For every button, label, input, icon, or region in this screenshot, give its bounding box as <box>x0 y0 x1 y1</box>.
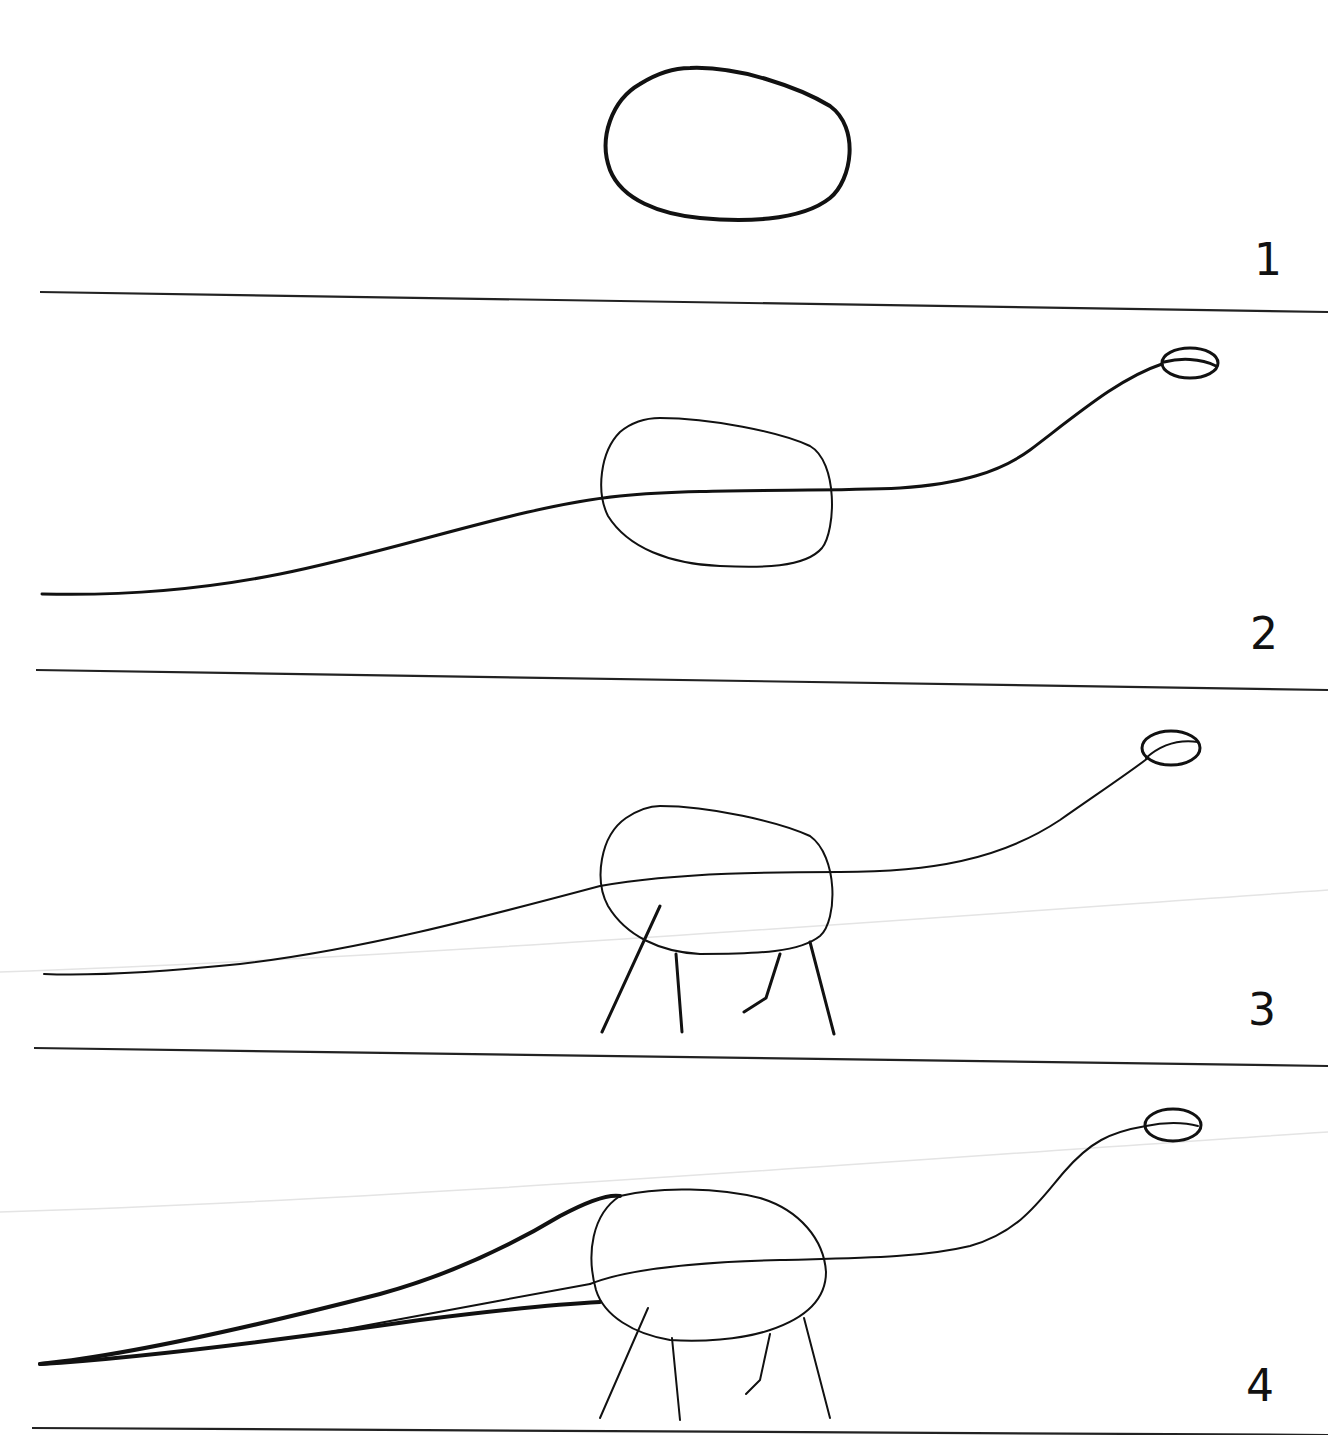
step-1-drawing <box>606 68 850 220</box>
faint-scan-line <box>0 1132 1328 1212</box>
faint-scan-line <box>0 890 1328 972</box>
head-mouth-line <box>1164 359 1216 366</box>
leg-back-left <box>744 954 780 1012</box>
dinosaur-drawing-steps <box>0 0 1328 1435</box>
step-2-drawing <box>42 348 1218 594</box>
body-oval <box>606 68 850 220</box>
tail-lower-outline <box>40 1302 600 1364</box>
body-oval <box>591 1189 826 1340</box>
divider-3 <box>34 1048 1328 1066</box>
step-number-1: 1 <box>1254 238 1282 282</box>
leg-back-right <box>810 942 834 1034</box>
step-3-drawing <box>44 731 1200 1034</box>
divider-1 <box>40 292 1328 312</box>
tail-upper-outline <box>40 1196 620 1364</box>
neck-and-tail-line <box>44 758 1148 975</box>
leg-front-right <box>676 954 682 1032</box>
divider-2 <box>36 670 1328 690</box>
head-mouth-line <box>1146 741 1198 758</box>
step-number-2: 2 <box>1250 612 1278 656</box>
leg-front-right <box>672 1338 680 1420</box>
head-mouth-line <box>1146 1123 1198 1126</box>
leg-back-right <box>804 1318 830 1418</box>
leg-back-left <box>746 1334 770 1394</box>
step-number-4: 4 <box>1246 1364 1274 1408</box>
leg-front-left <box>602 906 660 1032</box>
divider-4 <box>32 1428 1328 1435</box>
step-4-drawing <box>40 1109 1201 1420</box>
head-oval <box>1142 731 1200 765</box>
step-number-3: 3 <box>1248 988 1276 1032</box>
